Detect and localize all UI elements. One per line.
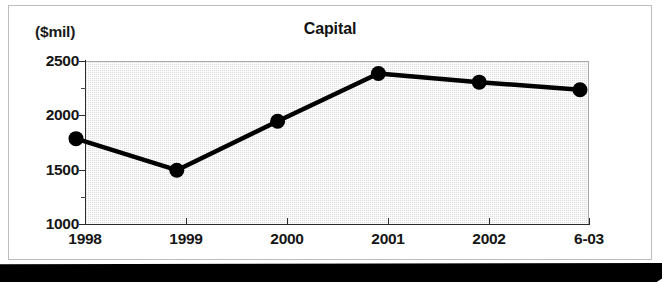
x-tick-mark: [489, 218, 490, 225]
y-tick-label: 1500: [17, 161, 79, 179]
x-tick-mark: [287, 218, 288, 225]
x-tick-label: 2000: [242, 230, 332, 248]
page-edge-bar: [0, 263, 662, 282]
x-tick-mark: [85, 218, 86, 225]
x-axis-line: [85, 224, 590, 225]
x-tick-label: 1999: [141, 230, 231, 248]
x-tick-label: 2002: [444, 230, 534, 248]
x-tick-mark: [186, 218, 187, 225]
y-tick-label: 2500: [17, 52, 79, 70]
y-minor-tick-mark: [81, 197, 86, 198]
x-tick-mark: [589, 218, 590, 225]
plot-area: [85, 61, 589, 224]
x-tick-label: 2001: [343, 230, 433, 248]
y-minor-tick-mark: [81, 142, 86, 143]
y-tick-label: 2000: [17, 106, 79, 124]
chart-title: Capital: [9, 20, 651, 38]
x-tick-label: 6-03: [544, 230, 634, 248]
y-tick-mark: [79, 115, 86, 116]
figure-frame: ($mil) Capital 2500 2000 1500 1000 1998 …: [8, 5, 652, 260]
y-minor-tick-mark: [81, 88, 86, 89]
chart-screenshot: ($mil) Capital 2500 2000 1500 1000 1998 …: [0, 0, 662, 282]
y-tick-mark: [79, 61, 86, 62]
x-tick-label: 1998: [40, 230, 130, 248]
y-tick-mark: [79, 170, 86, 171]
x-tick-mark: [388, 218, 389, 225]
